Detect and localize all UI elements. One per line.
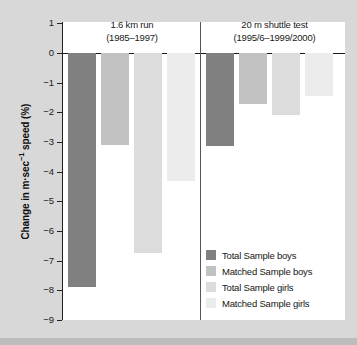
bar	[68, 53, 96, 287]
bar	[305, 53, 333, 96]
chart-legend: Total Sample boysMatched Sample boysTota…	[206, 247, 338, 311]
scan-band	[0, 338, 357, 345]
y-axis-title-main: Change in m·sec	[20, 161, 31, 240]
legend-swatch-icon	[206, 250, 216, 260]
bar	[239, 53, 267, 104]
y-axis-title-tail: speed (%)	[20, 104, 31, 153]
legend-item: Matched Sample girls	[206, 295, 338, 311]
y-axis-line	[62, 22, 63, 320]
legend-label: Total Sample boys	[222, 250, 296, 261]
y-tick-mark	[57, 53, 62, 54]
panel-2-period: (1995/6–1999/2000)	[202, 31, 347, 44]
y-tick-mark	[57, 320, 62, 321]
legend-label: Matched Sample girls	[222, 298, 309, 309]
y-axis-title-exponent: −1	[17, 153, 26, 161]
y-tick-mark	[57, 142, 62, 143]
y-tick-label: 1	[14, 18, 54, 28]
y-tick-label: −9	[14, 315, 54, 325]
y-tick-label: 0	[14, 48, 54, 58]
legend-swatch-icon	[206, 298, 216, 308]
legend-label: Matched Sample boys	[222, 266, 312, 277]
y-tick-mark	[57, 201, 62, 202]
y-tick-mark	[57, 23, 62, 24]
y-tick-mark	[57, 231, 62, 232]
panel-title-2: 20 m shuttle test (1995/6–1999/2000)	[202, 18, 347, 44]
panel-divider	[200, 22, 201, 320]
legend-item: Total Sample girls	[206, 279, 338, 295]
bar	[206, 53, 234, 146]
y-tick-mark	[57, 290, 62, 291]
y-tick-mark	[57, 261, 62, 262]
y-tick-mark	[57, 112, 62, 113]
panel-title-1: 1.6 km run (1985–1997)	[66, 18, 198, 44]
legend-swatch-icon	[206, 266, 216, 276]
panel-2-name: 20 m shuttle test	[202, 18, 347, 31]
y-tick-mark	[57, 83, 62, 84]
bar	[101, 53, 129, 145]
y-axis-title: Change in m·sec−1 speed (%)	[17, 72, 30, 272]
legend-item: Matched Sample boys	[206, 263, 338, 279]
bar	[167, 53, 195, 181]
panel-1-name: 1.6 km run	[66, 18, 198, 31]
legend-swatch-icon	[206, 282, 216, 292]
panel-1-period: (1985–1997)	[66, 31, 198, 44]
y-tick-mark	[57, 172, 62, 173]
legend-item: Total Sample boys	[206, 247, 338, 263]
bar	[134, 53, 162, 253]
bar	[272, 53, 300, 115]
legend-label: Total Sample girls	[222, 282, 293, 293]
figure-root: 10−1−2−3−4−5−6−7−8−9 Change in m·sec−1 s…	[0, 0, 357, 345]
y-tick-label: −8	[14, 285, 54, 295]
